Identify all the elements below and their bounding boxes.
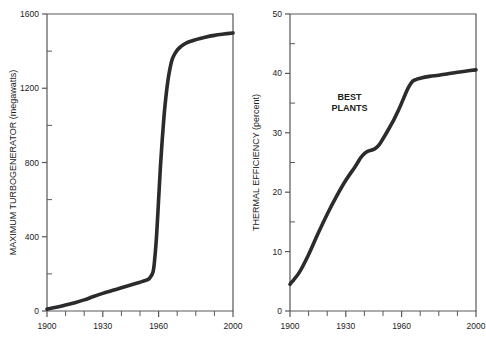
right-xtick-label: 1960 (392, 321, 411, 331)
left-plot-svg: 0400800120016001900193019602000 MAXIMUM … (0, 0, 243, 356)
right-plot-frame (290, 14, 476, 311)
right-axes-group (290, 14, 476, 311)
left-axes-group (47, 14, 233, 311)
right-annotation-group: BESTPLANTS (332, 92, 368, 113)
left-ytick-label: 400 (25, 232, 39, 242)
left-ticklabels-group: 0400800120016001900193019602000 (20, 9, 243, 331)
left-ytick-label: 800 (25, 158, 39, 168)
right-ytick-label: 10 (273, 247, 283, 257)
left-axis-title-group: MAXIMUM TURBOGENERATOR (megawatts) (8, 70, 18, 256)
right-ytick-label: 20 (273, 187, 283, 197)
right-ytick-label: 50 (273, 9, 283, 19)
left-data-curve (47, 33, 233, 309)
figure-container: 0400800120016001900193019602000 MAXIMUM … (0, 0, 486, 356)
left-ytick-label: 0 (34, 306, 39, 316)
right-ytick-label: 30 (273, 128, 283, 138)
right-ytick-label: 40 (273, 68, 283, 78)
left-xtick-label: 1960 (149, 321, 168, 331)
right-y-axis-title: THERMAL EFFICIENCY (percent) (251, 94, 261, 231)
right-data-curve (290, 70, 476, 284)
right-ticklabels-group: 010203040501900193019602000 (273, 9, 486, 331)
chart-panel-left: 0400800120016001900193019602000 MAXIMUM … (0, 0, 243, 356)
right-axis-title-group: THERMAL EFFICIENCY (percent) (251, 94, 261, 231)
right-ticks-group (285, 14, 476, 317)
right-annotation-line-1: BEST (338, 92, 363, 102)
right-xtick-label: 1930 (336, 321, 355, 331)
chart-panel-right: 010203040501900193019602000 BESTPLANTS T… (243, 0, 486, 356)
right-curve-group (290, 70, 476, 284)
left-y-axis-title: MAXIMUM TURBOGENERATOR (megawatts) (8, 70, 18, 256)
left-ytick-label: 1600 (20, 9, 39, 19)
right-xtick-label: 1900 (281, 321, 300, 331)
right-xtick-label: 2000 (467, 321, 486, 331)
left-xtick-label: 2000 (224, 321, 243, 331)
right-plot-svg: 010203040501900193019602000 BESTPLANTS T… (243, 0, 486, 356)
right-annotation-line-2: PLANTS (332, 103, 368, 113)
left-ticks-group (42, 14, 233, 317)
left-curve-group (47, 33, 233, 309)
right-ytick-label: 0 (277, 306, 282, 316)
left-plot-frame (47, 14, 233, 311)
left-xtick-label: 1900 (38, 321, 57, 331)
left-ytick-label: 1200 (20, 83, 39, 93)
left-xtick-label: 1930 (93, 321, 112, 331)
